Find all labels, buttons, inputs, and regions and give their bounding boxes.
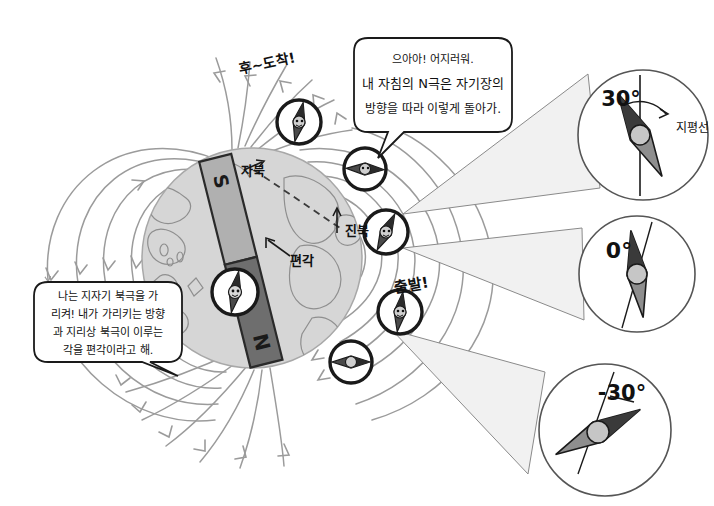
bubble-left-line-1: 나는 지자기 북극을 가: [58, 290, 159, 303]
bubble-left-line-2: 리켜! 내가 가리키는 방향: [51, 308, 166, 321]
diagram-canvas: S N: [0, 0, 714, 506]
label-magnetic-north: 자북: [241, 163, 265, 178]
bubble-top-line-2: 내 자침의 N극은 자기장의: [362, 76, 504, 91]
compass-lower-right: [330, 341, 372, 383]
compass-mid-right: [364, 210, 408, 254]
magnifier-top: 30° 지평선: [578, 70, 709, 200]
label-true-north: 진북: [345, 223, 369, 238]
magnifier-bottom: -30°: [539, 364, 671, 496]
cone-middle: [403, 228, 584, 320]
compass-globe: [212, 269, 258, 315]
earth-magnetic-field-diagram: S N: [0, 0, 714, 506]
magnifier-top-angle: 30°: [601, 87, 641, 111]
label-declination: 편각: [290, 253, 314, 268]
speech-bubble-top: 으아아! 어지러워. 내 자침의 N극은 자기장의 방향을 따라 이렇게 돌아가…: [354, 38, 512, 158]
magnifier-middle-angle: 0°: [606, 238, 632, 263]
magnifier-top-reference: 지평선: [676, 121, 709, 135]
compass-arrive: [277, 100, 321, 144]
bubble-top-line-3: 방향을 따라 이렇게 돌아가.: [365, 101, 501, 116]
label-arrive: 후~도착!: [237, 49, 296, 77]
speech-bubble-left: 나는 지자기 북극을 가 리켜! 내가 가리키는 방향 과 지리상 북극이 이루…: [34, 282, 182, 376]
label-start: 출발!: [392, 273, 429, 297]
magnifier-bottom-angle: -30°: [598, 381, 646, 405]
magnifier-middle: 0°: [579, 216, 695, 332]
compass-start: [378, 290, 422, 334]
bubble-left-line-3: 과 지리상 북극이 이루는: [53, 326, 164, 339]
bubble-top-line-1: 으아아! 어지러워.: [392, 53, 473, 66]
bubble-left-line-4: 각을 편각이라고 해.: [63, 343, 154, 357]
